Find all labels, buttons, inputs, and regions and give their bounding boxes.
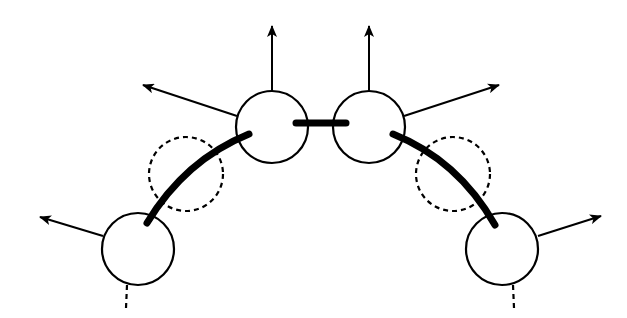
arrow-top-right-icon [404,85,499,116]
tail-bottom-right [513,285,514,308]
node-bottom-left [102,213,174,285]
right-arc-bond [393,134,495,225]
node-top-left [236,91,308,163]
arrow-top-left-icon [143,85,237,116]
arrow-bottom-left-icon [40,217,103,236]
dashed-tails [126,285,514,308]
node-top-right [333,91,405,163]
node-bottom-right [466,213,538,285]
joint-chain-diagram [0,0,627,318]
arrow-bottom-right-icon [538,216,601,236]
arrows [40,26,601,236]
dashed-circles [149,137,490,211]
tail-bottom-left [126,285,127,308]
